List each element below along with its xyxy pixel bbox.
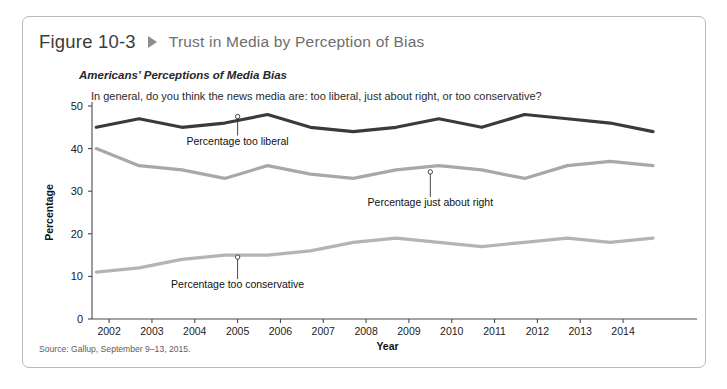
y-axis-title: Percentage	[43, 184, 55, 241]
x-tick-label: 2011	[483, 325, 506, 337]
x-tick-label: 2006	[269, 325, 293, 337]
annotation-marker	[428, 170, 432, 174]
y-tick-label: 10	[71, 270, 83, 282]
y-tick-label: 50	[71, 100, 83, 112]
x-tick-label: 2003	[140, 325, 164, 337]
series-line	[96, 238, 653, 272]
annotation-marker	[235, 114, 239, 118]
axis-titles: YearPercentage	[43, 184, 399, 352]
x-tick-label: 2008	[354, 325, 378, 337]
chart-plot-area: 01020304050 2002200320042005200620072008…	[23, 17, 707, 369]
x-tick-label: 2012	[526, 325, 550, 337]
y-tick-label: 0	[77, 313, 83, 325]
series-annotations: Percentage too liberalPercentage just ab…	[171, 114, 493, 290]
x-tick-label: 2007	[312, 325, 336, 337]
y-tick-label: 20	[71, 228, 83, 240]
figure-card: Figure 10-3 Trust in Media by Perception…	[22, 16, 706, 368]
series-line	[96, 149, 653, 179]
y-tick-label: 30	[71, 185, 83, 197]
x-tick-label: 2005	[226, 325, 250, 337]
series-line	[96, 115, 653, 132]
x-tick-label: 2014	[611, 325, 635, 337]
annotation-marker	[235, 255, 239, 259]
y-axis-ticks: 01020304050	[71, 100, 92, 325]
y-tick-label: 40	[71, 143, 83, 155]
x-tick-label: 2010	[440, 325, 464, 337]
x-axis-ticks: 2002200320042005200620072008200920102011…	[97, 319, 634, 337]
line-chart: 01020304050 2002200320042005200620072008…	[23, 17, 707, 369]
annotation-label: Percentage too liberal	[187, 135, 289, 147]
x-tick-label: 2002	[97, 325, 121, 337]
annotation-label: Percentage just about right	[368, 196, 494, 208]
x-tick-label: 2009	[397, 325, 421, 337]
annotation-label: Percentage too conservative	[171, 278, 304, 290]
x-tick-label: 2004	[183, 325, 207, 337]
source-note: Source: Gallup, September 9–13, 2015.	[39, 344, 190, 354]
x-tick-label: 2013	[569, 325, 593, 337]
x-axis-title: Year	[376, 340, 398, 352]
series-lines	[96, 115, 653, 273]
